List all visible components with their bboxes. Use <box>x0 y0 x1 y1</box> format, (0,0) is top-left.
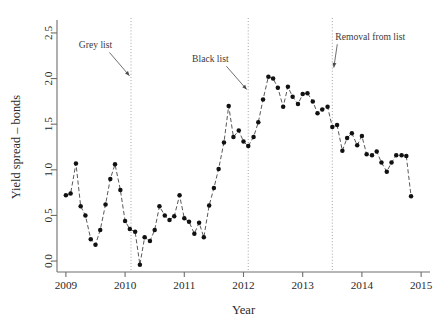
data-point <box>271 76 276 81</box>
data-point <box>74 161 79 166</box>
data-point <box>172 214 177 219</box>
data-point <box>123 219 128 224</box>
data-point <box>379 160 384 165</box>
y-tick-label-0: 0.0 <box>42 254 54 268</box>
data-point <box>385 169 390 174</box>
y-tick-label-4: 2.0 <box>42 71 54 85</box>
data-point <box>89 237 94 242</box>
y-axis-title: Yield spread – bonds <box>9 95 23 199</box>
data-point <box>355 143 360 148</box>
data-point <box>83 213 88 218</box>
data-point <box>374 149 379 154</box>
data-point <box>246 144 251 149</box>
annotation-arrowhead-2 <box>333 63 337 68</box>
data-point <box>345 136 350 141</box>
data-point <box>103 202 108 207</box>
series-connector-line <box>66 77 411 265</box>
data-point <box>197 220 202 225</box>
data-point <box>177 193 182 198</box>
event-lines-layer <box>131 18 332 272</box>
data-point <box>202 235 207 240</box>
data-point <box>241 139 246 144</box>
data-point <box>152 228 157 233</box>
data-point <box>68 191 73 196</box>
yield-spread-scatter-chart: 0.00.51.01.52.02.52009201020112012201320… <box>0 0 437 325</box>
data-point <box>360 134 365 139</box>
data-point <box>315 111 320 116</box>
annotation-arrow-1 <box>226 66 246 89</box>
data-point <box>128 227 133 232</box>
data-point <box>113 162 118 167</box>
data-point <box>325 105 330 110</box>
data-point <box>138 262 143 267</box>
data-point <box>296 102 301 107</box>
data-point <box>108 177 113 182</box>
chart-figure: 0.00.51.01.52.02.52009201020112012201320… <box>0 0 437 325</box>
y-tick-label-3: 1.5 <box>42 117 54 131</box>
data-point <box>350 131 355 136</box>
annotation-arrow-0 <box>109 52 129 75</box>
x-tick-label-2: 2011 <box>173 279 195 291</box>
data-point <box>163 213 168 218</box>
x-tick-label-3: 2012 <box>232 279 254 291</box>
data-point <box>222 140 227 145</box>
data-point <box>276 85 281 90</box>
x-tick-label-0: 2009 <box>55 279 78 291</box>
data-point <box>142 235 147 240</box>
y-tick-label-2: 1.0 <box>42 162 54 176</box>
data-point <box>281 105 286 110</box>
data-point <box>148 239 153 244</box>
data-point <box>231 135 236 140</box>
data-point <box>118 188 123 193</box>
data-point <box>256 120 261 125</box>
data-point <box>64 193 69 198</box>
x-tick-label-5: 2014 <box>351 279 374 291</box>
annotations-layer: Grey listBlack listRemoval from list <box>79 31 406 89</box>
data-point <box>187 220 192 225</box>
y-tick-label-5: 2.5 <box>42 26 54 40</box>
data-point <box>251 135 256 140</box>
x-axis-title: Year <box>232 303 256 317</box>
data-point <box>330 125 335 129</box>
data-point <box>133 230 138 235</box>
data-series-layer <box>64 74 414 266</box>
data-point <box>216 167 221 172</box>
data-point <box>389 160 394 165</box>
data-point <box>311 99 316 104</box>
data-point <box>300 92 305 97</box>
data-point <box>207 203 212 208</box>
data-point <box>266 74 271 79</box>
data-point <box>226 104 231 109</box>
data-point <box>237 128 242 133</box>
data-point <box>290 95 295 100</box>
x-tick-label-6: 2015 <box>410 279 433 291</box>
data-point <box>394 153 399 158</box>
data-point <box>340 148 345 153</box>
data-point <box>320 107 325 112</box>
data-point <box>212 186 217 191</box>
data-point <box>335 123 340 128</box>
data-point <box>399 153 404 158</box>
data-point <box>182 216 187 221</box>
data-point <box>167 218 172 223</box>
y-tick-label-1: 0.5 <box>42 208 54 222</box>
data-point <box>78 204 83 209</box>
annotation-label-0: Grey list <box>79 39 113 50</box>
data-point <box>364 152 369 157</box>
data-point <box>157 204 162 209</box>
data-point <box>409 194 414 199</box>
data-point <box>286 85 291 90</box>
annotation-label-1: Black list <box>192 53 229 64</box>
x-tick-label-1: 2010 <box>114 279 137 291</box>
data-point <box>98 228 103 233</box>
data-point <box>305 91 310 96</box>
data-point <box>370 153 375 158</box>
data-point <box>261 97 266 102</box>
data-point <box>404 154 409 159</box>
data-point <box>93 242 98 247</box>
x-tick-label-4: 2013 <box>292 279 315 291</box>
annotation-label-2: Removal from list <box>335 31 405 42</box>
data-point <box>192 231 197 236</box>
